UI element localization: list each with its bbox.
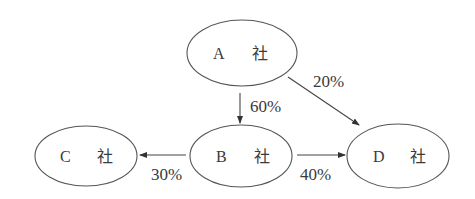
node-b-ellipse (190, 125, 292, 187)
node-a-suffix: 社 (252, 45, 268, 62)
node-a-letter: A (213, 45, 225, 62)
edge-a-b-label: 60% (250, 97, 281, 116)
node-b-suffix: 社 (254, 148, 270, 165)
edge-a-d-label: 20% (313, 72, 344, 91)
node-b-letter: B (216, 148, 227, 165)
node-d-ellipse (347, 124, 449, 188)
edge-b-to-c: 30% (140, 155, 186, 184)
ownership-diagram: A 社 B 社 C 社 D 社 60% 20% 30% 40% (0, 0, 475, 199)
node-c-letter: C (60, 148, 71, 165)
node-d: D 社 (347, 124, 449, 188)
node-b: B 社 (190, 125, 292, 187)
edge-a-to-b: 60% (240, 93, 281, 123)
edge-b-c-label: 30% (151, 165, 182, 184)
node-a-ellipse (187, 20, 297, 86)
node-c-suffix: 社 (97, 148, 113, 165)
edge-b-d-label: 40% (300, 165, 331, 184)
edge-b-to-d: 40% (297, 155, 345, 184)
node-c-ellipse (35, 126, 137, 186)
node-c: C 社 (35, 126, 137, 186)
node-d-suffix: 社 (410, 148, 426, 165)
edge-a-to-d: 20% (288, 72, 359, 125)
node-d-letter: D (373, 148, 385, 165)
node-a: A 社 (187, 20, 297, 86)
